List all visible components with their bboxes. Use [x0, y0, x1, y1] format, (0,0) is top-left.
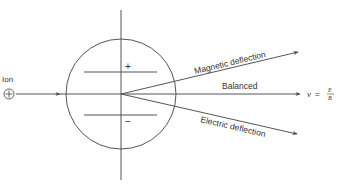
formula-equals: =	[315, 90, 320, 99]
electric-deflection-label: Electric deflection	[200, 114, 267, 139]
electric-deflection-path	[121, 94, 297, 134]
ion-label: Ion	[2, 75, 13, 84]
balanced-label: Balanced	[222, 81, 258, 91]
positive-sign: +	[125, 61, 131, 72]
magnetic-deflection-path	[121, 52, 298, 94]
velocity-selector-diagram: + − Ion Magnetic deflection Balanced Ele…	[0, 0, 344, 190]
formula-v: v	[307, 89, 311, 99]
negative-sign: −	[125, 116, 131, 127]
formula-numerator: E	[327, 87, 332, 93]
formula-denominator: B	[328, 95, 332, 101]
